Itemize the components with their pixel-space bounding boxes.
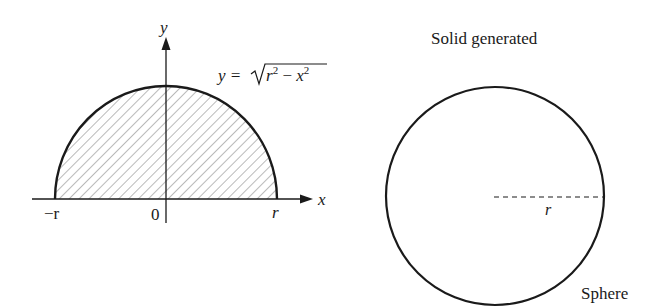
sphere-outline xyxy=(386,87,604,305)
solid-generated-title: Solid generated xyxy=(431,29,538,48)
tick-label-origin: 0 xyxy=(151,205,160,224)
x-axis-arrow-icon xyxy=(300,195,313,204)
svg-text:r2 − x2: r2 − x2 xyxy=(266,64,309,85)
radius-label: r xyxy=(545,201,552,218)
curve-equation: y = r2 − x2 xyxy=(216,64,327,85)
sphere-caption: Sphere xyxy=(581,284,628,303)
x-axis-label: x xyxy=(317,190,326,209)
semicircle-figure: y x −r 0 r y = r2 − x2 xyxy=(32,18,327,224)
y-axis-label: y xyxy=(158,18,168,37)
tick-label-minus-r: −r xyxy=(44,204,60,223)
diagram-canvas: y x −r 0 r y = r2 − x2 Solid generated r… xyxy=(0,0,660,308)
tick-label-r: r xyxy=(272,203,279,222)
sphere-figure: Solid generated r Sphere xyxy=(386,29,628,305)
y-axis-arrow-icon xyxy=(162,37,171,50)
svg-text:y =: y = xyxy=(216,66,241,85)
